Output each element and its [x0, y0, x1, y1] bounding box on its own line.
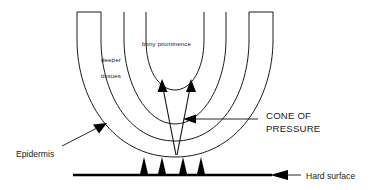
epidermis-leader-arrowhead	[93, 123, 107, 134]
hard-surface-arrowhead	[270, 170, 288, 180]
label-epidermis: Epidermis	[16, 149, 54, 159]
label-deeper: deeper	[101, 56, 121, 63]
diagram-canvas: deeper tissues bony prominence CONE OF P…	[0, 0, 372, 190]
middle-tissue-curve	[124, 12, 175, 124]
cone-left-ray	[163, 88, 176, 155]
pressure-arrow-3	[179, 157, 187, 174]
bony-prominence-curve-left	[146, 12, 175, 90]
middle-tissue-curve-right	[175, 12, 226, 124]
label-bony-prominence: bony prominence	[142, 40, 191, 47]
label-cone-of-pressure-line2: PRESSURE	[266, 123, 320, 134]
pressure-ulcer-diagram: deeper tissues bony prominence CONE OF P…	[0, 0, 372, 190]
cone-arrowhead-left	[158, 79, 168, 92]
outer-tissue-curve	[77, 12, 273, 157]
pressure-arrow-1	[140, 157, 148, 174]
label-cone-of-pressure-line1: CONE OF	[266, 110, 311, 121]
pressure-arrow-2	[158, 157, 166, 174]
pressure-arrow-4	[197, 157, 205, 174]
bony-prominence-curve-right	[175, 12, 204, 90]
label-hard-surface: Hard surface	[306, 171, 355, 181]
epidermis-leader-line	[62, 127, 99, 146]
label-tissues: tissues	[101, 72, 121, 79]
